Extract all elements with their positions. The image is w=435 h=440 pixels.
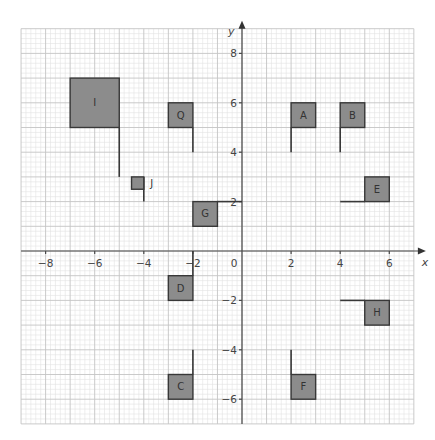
y-axis-label: y — [227, 25, 235, 38]
x-axis-arrow-icon — [418, 248, 426, 255]
flag-label: J — [149, 178, 153, 189]
y-tick-label: 8 — [230, 47, 237, 59]
x-tick-label: −4 — [136, 257, 152, 269]
flag-label: H — [373, 307, 381, 318]
y-tick-label: −4 — [222, 344, 238, 356]
x-tick-label: 6 — [386, 257, 393, 269]
coordinate-grid-diagram: xy −8−6−4−202468642−2−4−6 IQABJGEDHCF — [0, 0, 435, 440]
y-axis-arrow-icon — [239, 21, 246, 29]
y-tick-label: −2 — [222, 294, 237, 306]
y-tick-label: −6 — [222, 393, 238, 405]
flag-h: H — [340, 300, 389, 325]
x-tick-label: 4 — [337, 257, 344, 269]
y-tick-label: 6 — [230, 97, 237, 109]
flag-q: Q — [168, 103, 193, 152]
flag-f: F — [291, 350, 316, 399]
x-axis-label: x — [421, 256, 429, 269]
flag-label: Q — [177, 110, 185, 121]
x-tick-label: 2 — [288, 257, 295, 269]
flag-a: A — [291, 103, 316, 152]
x-tick-label: 0 — [231, 257, 238, 269]
y-tick-label: 4 — [230, 146, 237, 158]
flag-e: E — [340, 177, 389, 202]
x-tick-label: −8 — [38, 257, 53, 269]
flag-label: I — [93, 97, 96, 108]
flag-label: G — [201, 208, 209, 219]
flag-label: B — [349, 110, 356, 121]
flag-label: E — [374, 184, 380, 195]
flag-label: C — [177, 381, 184, 392]
flag-label: F — [300, 381, 306, 392]
flag-label: A — [300, 110, 307, 121]
flag-j: J — [132, 177, 154, 202]
flag-b: B — [340, 103, 365, 152]
flag-shape — [132, 177, 144, 189]
flag-c: C — [168, 350, 193, 399]
x-tick-label: −6 — [87, 257, 103, 269]
flag-label: D — [177, 283, 185, 294]
